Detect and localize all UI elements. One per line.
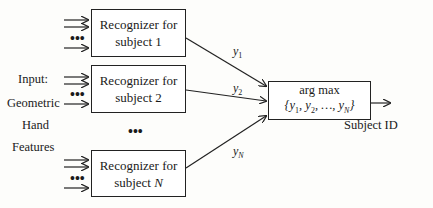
output-label-y2: y2: [233, 81, 242, 97]
recognizer-n-line2: subject N: [114, 174, 163, 191]
argmax-box: arg max {y1, y2, …, yN}: [268, 81, 371, 120]
ellipsis-inputs-2: •••: [70, 91, 85, 99]
recognizer-1-prefix: subject: [115, 34, 155, 49]
recognizer-1-line2: subject 1: [115, 33, 162, 50]
recognizer-n-index: N: [154, 175, 163, 190]
recognizer-2-line1: Recognizer for: [100, 72, 178, 89]
output-label-y1: y1: [233, 44, 242, 60]
input-label-line4: Features: [12, 140, 54, 155]
input-label-line2: Geometric: [7, 96, 60, 111]
recognizer-2-prefix: subject: [115, 90, 155, 105]
y1-sub: 1: [238, 51, 242, 60]
argmax-title: arg max: [299, 83, 339, 98]
recognizer-box-n: Recognizer for subject N: [91, 150, 186, 197]
argmax-expression: {y1, y2, …, yN}: [285, 98, 355, 118]
output-subject-id: Subject ID: [344, 118, 398, 133]
ellipsis-inputs-1: •••: [70, 35, 85, 43]
recognizer-n-prefix: subject: [114, 175, 154, 190]
ellipsis-inputs-n: •••: [70, 175, 85, 183]
recognizer-box-2: Recognizer for subject 2: [91, 65, 186, 113]
input-label-line1: Input:: [18, 72, 48, 87]
recognizer-2-line2: subject 2: [115, 89, 162, 106]
recognizer-box-1: Recognizer for subject 1: [91, 9, 186, 57]
input-label-line3: Hand: [22, 118, 49, 133]
recognizer-n-line1: Recognizer for: [100, 157, 178, 174]
yn-sub: N: [238, 151, 243, 160]
ellipsis-recognizers: •••: [128, 128, 143, 136]
y2-sub: 2: [238, 88, 242, 97]
recognizer-1-index: 1: [155, 34, 162, 49]
output-label-yn: yN: [233, 144, 244, 160]
recognizer-2-index: 2: [155, 90, 162, 105]
recognizer-1-line1: Recognizer for: [100, 16, 178, 33]
